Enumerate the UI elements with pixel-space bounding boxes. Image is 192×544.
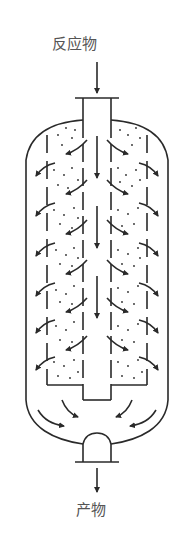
catalyst-particles xyxy=(53,127,143,379)
reactor-diagram xyxy=(0,0,192,544)
inlet-pipe xyxy=(75,98,119,120)
catalyst-bed-right xyxy=(111,135,147,385)
catalyst-bed-left xyxy=(47,135,83,385)
outlet-pipe xyxy=(75,433,119,462)
